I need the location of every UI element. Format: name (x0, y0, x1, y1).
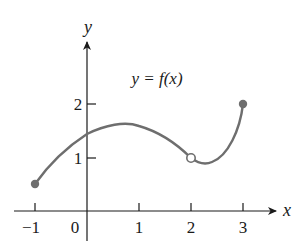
open-point (187, 154, 195, 162)
function-curve (35, 104, 243, 184)
filled-endpoint-left (31, 180, 39, 188)
y-tick-label-1: 1 (74, 149, 83, 168)
x-axis-label: x (282, 200, 291, 220)
x-tick-label-0: 0 (71, 218, 80, 237)
y-axis-label: y (82, 17, 92, 37)
filled-endpoint-right (239, 100, 247, 108)
x-tick-label-1: 1 (135, 218, 144, 237)
y-tick-label-2: 2 (74, 95, 83, 114)
function-label: y = f(x) (129, 69, 182, 88)
x-tick-label-3: 3 (239, 218, 248, 237)
x-tick-label-neg1: −1 (22, 218, 40, 237)
x-tick-label-2: 2 (187, 218, 196, 237)
function-graph: −1 0 1 2 3 1 2 x y y = f(x) (0, 0, 306, 248)
x-ticks (35, 203, 243, 211)
